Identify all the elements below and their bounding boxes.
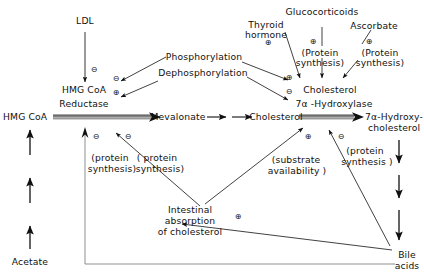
arrow-hmgcoa-to-mevalonate [53, 112, 161, 121]
minus-symbol-intestinal-inhibits-mevalonate: ⊖ [125, 133, 132, 141]
node-mevalonate: Mevalonate [150, 112, 205, 123]
annotation-protein-synthesis-right-line2: synthesis ) [341, 157, 392, 168]
node-intestinal-absorption-line2: absorption [165, 216, 216, 227]
minus-symbol-bile-acids-inhibit-hydroxylase: ⊖ [338, 133, 345, 141]
node-hydroxycholesterol-line2: cholesterol [368, 123, 420, 134]
node-phosphorylation: Phosphorylation [166, 52, 242, 63]
arrow-phosphorylation-to-hydroxylase [242, 62, 288, 80]
plus-symbol-glucocorticoids-activate: ⊕ [310, 38, 317, 46]
node-hmg-coa-reductase-line2: Reductase [59, 99, 108, 110]
arrow-dephosphorylation-to-hydroxylase [247, 77, 288, 100]
annotation-protein-synthesis-ascorbate-line2: synthesis) [356, 58, 404, 69]
annotation-protein-synthesis-mid-line2: synthesis) [136, 164, 184, 175]
plus-symbol-phospho-activates-hydroxylase: ⊕ [286, 74, 293, 82]
annotation-substrate-availability-line2: availability ) [268, 166, 327, 177]
minus-symbol-ldl-inhibits-reductase: ⊖ [91, 66, 98, 74]
node-cholesterol-7a-hydroxylase-line2: 7α -Hydroxylase [296, 99, 373, 110]
minus-symbol-dephospho-inhibits-hydroxylase: ⊖ [286, 88, 293, 96]
node-hmg-coa: HMG CoA [3, 112, 47, 123]
arrow-dephosphorylation-to-reductase [121, 81, 158, 97]
plus-symbol-thyroid-activates: ⊕ [265, 39, 272, 47]
plus-symbol-bile-acids-activate-intestinal: ⊕ [235, 213, 242, 221]
plus-symbol-ascorbate-activates: ⊕ [366, 38, 373, 46]
cholesterol-regulation-diagram: LDL Thyroid hormone Glucocorticoids Asco… [0, 0, 424, 280]
node-intestinal-absorption-line3: of cholesterol [158, 227, 222, 238]
arrow-cholesterol-to-hydroxycholesterol [299, 112, 364, 121]
minus-symbol-bile-acids-inhibit-hmgcoa: ⊖ [93, 133, 100, 141]
node-dephosphorylation: Dephosphorylation [158, 68, 248, 79]
node-glucocorticoids: Glucocorticoids [286, 7, 359, 18]
annotation-substrate-availability-line1: (substrate [272, 155, 321, 166]
node-hmg-coa-reductase-line1: HMG CoA [62, 85, 106, 96]
node-intestinal-absorption-line1: Intestinal [168, 205, 212, 216]
annotation-protein-synthesis-right-line1: (protein [346, 146, 383, 157]
annotation-protein-synthesis-mid-line1: ( protein [137, 153, 178, 164]
node-ldl: LDL [76, 16, 94, 27]
plus-symbol-dephosphorylation-activates-reductase: ⊕ [113, 89, 120, 97]
node-hydroxycholesterol-line1: 7α-Hydroxy- [365, 112, 423, 123]
annotation-protein-synthesis-glucocorticoids-line2: synthesis) [296, 58, 344, 69]
diagram-canvas [0, 0, 424, 280]
arrow-thyroid-to-hydroxylase [285, 32, 300, 78]
node-bile-acids-line2: acids [395, 261, 420, 272]
node-cholesterol: Cholesterol [249, 112, 303, 123]
plus-symbol-intestinal-activates-cholesterol: ⊕ [305, 133, 312, 141]
node-acetate: Acetate [12, 257, 48, 268]
node-bile-acids-line1: Bile [398, 250, 416, 261]
annotation-protein-synthesis-left-line2: synthesis) [88, 164, 136, 175]
annotation-protein-synthesis-left-line1: (protein [91, 153, 128, 164]
node-ascorbate: Ascorbate [350, 21, 398, 32]
node-cholesterol-7a-hydroxylase-line1: Cholesterol [303, 85, 357, 96]
minus-symbol-phosphorylation-inhibits-reductase: ⊖ [113, 75, 120, 83]
